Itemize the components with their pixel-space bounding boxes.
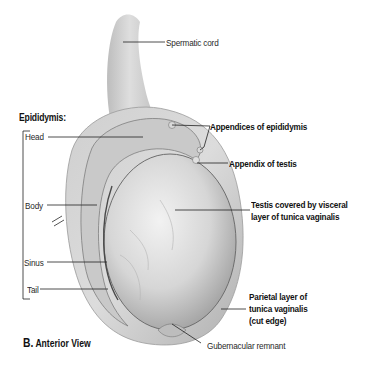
label-parietal-line1: Parietal layer of [249, 291, 307, 302]
label-appendices-epididymis: Appendices of epididymis [210, 121, 307, 132]
label-tail: Tail [27, 284, 39, 295]
label-testis-line2: layer of tunica vaginalis [251, 211, 339, 222]
testis-illustration [0, 0, 371, 368]
epididymis-heading: Epididymis: [19, 112, 66, 123]
label-appendix-testis: Appendix of testis [229, 158, 297, 169]
spermatic-cord-shape [107, 15, 152, 119]
label-sinus: Sinus [24, 257, 44, 268]
label-spermatic-cord: Spermatic cord [166, 37, 219, 48]
label-head: Head [25, 131, 44, 142]
figure-caption: B. Anterior View [23, 336, 91, 350]
label-parietal-line2: tunica vaginalis [249, 303, 308, 314]
caption-text: Anterior View [35, 338, 90, 349]
label-testis-line1: Testis covered by visceral [251, 199, 348, 210]
testis-shape [104, 154, 236, 330]
caption-letter: B. [23, 336, 33, 350]
label-body: Body [25, 200, 43, 211]
appendix-testis-nodule [193, 157, 200, 164]
anatomy-figure: Spermatic cord Epididymis: Head Body Sin… [0, 0, 371, 368]
label-parietal-line3: (cut edge) [249, 315, 286, 326]
label-gubernacular-remnant: Gubernacular remnant [207, 340, 285, 351]
